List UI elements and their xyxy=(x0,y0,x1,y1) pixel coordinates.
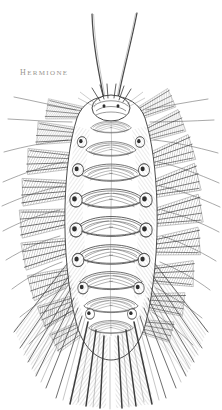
antenna-right xyxy=(117,13,137,99)
specimen-illustration xyxy=(0,0,222,410)
antenna-left xyxy=(92,14,105,99)
engraving-plate: Hermione xyxy=(0,0,222,410)
